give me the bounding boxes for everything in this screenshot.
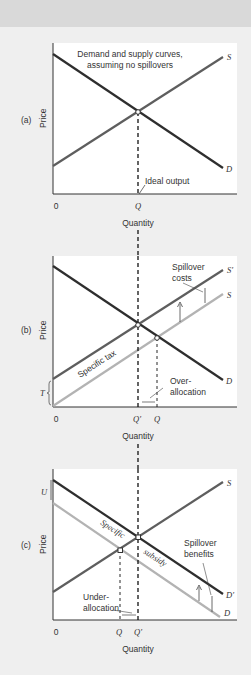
under-allocation-line1: Under- xyxy=(83,592,109,602)
panel-tag-b: (b) xyxy=(21,325,32,335)
x-tick-0-a: 0 xyxy=(54,201,59,211)
over-allocation-line2: allocation xyxy=(170,387,206,397)
panel-b: Spillover costs Specific tax Over- alloc… xyxy=(21,256,237,441)
x-tick-q-b: Q xyxy=(154,414,160,424)
equilibrium-point-a xyxy=(136,110,141,115)
spillover-benefits-line1: Spillover xyxy=(184,538,217,548)
x-tick-0-b: 0 xyxy=(54,414,59,424)
under-allocation-line2: allocation xyxy=(83,603,119,613)
equilibrium-point-c1 xyxy=(136,535,141,540)
ideal-output-label: Ideal output xyxy=(145,176,190,186)
equilibrium-point-c2 xyxy=(118,548,123,553)
x-tick-q-prime-b: Q' xyxy=(133,414,141,424)
spillover-costs-line1: Spillover xyxy=(172,262,205,272)
spillover-benefits-line2: benefits xyxy=(184,549,214,559)
y-axis-label-b: Price xyxy=(38,320,48,340)
over-allocation-line1: Over- xyxy=(170,376,191,386)
x-axis-label-b: Quantity xyxy=(122,431,154,441)
x-axis-label-c: Quantity xyxy=(122,644,154,654)
y-marker-u: U xyxy=(41,487,48,497)
y-axis-label-c: Price xyxy=(38,534,48,554)
panel-tag-a: (a) xyxy=(21,115,32,125)
title-line-2: assuming no spillovers xyxy=(87,60,173,70)
x-tick-q-a: Q xyxy=(135,201,141,211)
curve-label-d-c: D xyxy=(223,608,231,618)
spillover-costs-line2: costs xyxy=(172,273,192,283)
curve-label-d-prime-c: D' xyxy=(225,590,234,600)
y-axis-label-a: Price xyxy=(38,108,48,128)
panel-a: Demand and supply curves, assuming no sp… xyxy=(21,43,237,228)
x-axis-label-a: Quantity xyxy=(122,218,154,228)
curve-label-d-a: D xyxy=(225,164,233,174)
panel-c: Specific subsidy Spillover benefits Unde… xyxy=(21,469,237,654)
equilibrium-point-b2 xyxy=(155,336,160,341)
equilibrium-point-b1 xyxy=(136,323,141,328)
curve-label-d-b: D xyxy=(225,376,233,386)
spillover-diagram: Demand and supply curves, assuming no sp… xyxy=(0,0,251,691)
panel-tag-c: (c) xyxy=(21,540,31,550)
x-tick-0-c: 0 xyxy=(54,627,59,637)
title-line-1: Demand and supply curves, xyxy=(77,49,182,59)
x-tick-q-prime-c: Q' xyxy=(134,627,142,637)
y-marker-t: T xyxy=(40,388,46,398)
tax-bracket xyxy=(47,381,51,405)
x-tick-q-c: Q xyxy=(116,627,122,637)
curve-label-s-prime-b: S' xyxy=(227,265,233,275)
